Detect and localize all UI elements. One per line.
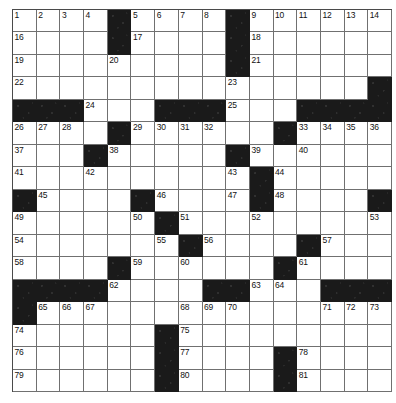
crossword-cell[interactable]: 10: [274, 10, 298, 32]
crossword-cell[interactable]: [250, 302, 274, 324]
crossword-cell[interactable]: 54: [13, 235, 37, 257]
crossword-cell[interactable]: [60, 145, 84, 167]
crossword-cell[interactable]: [274, 100, 298, 122]
crossword-cell[interactable]: [60, 32, 84, 54]
crossword-cell[interactable]: [274, 325, 298, 347]
crossword-cell[interactable]: [37, 235, 61, 257]
crossword-cell[interactable]: [345, 145, 369, 167]
crossword-cell[interactable]: 61: [297, 257, 321, 279]
crossword-cell[interactable]: 5: [131, 10, 155, 32]
crossword-cell[interactable]: [297, 190, 321, 212]
crossword-cell[interactable]: 12: [321, 10, 345, 32]
crossword-cell[interactable]: [368, 55, 392, 77]
crossword-cell[interactable]: 6: [155, 10, 179, 32]
crossword-cell[interactable]: 77: [179, 347, 203, 369]
crossword-cell[interactable]: [84, 347, 108, 369]
crossword-cell[interactable]: 49: [13, 212, 37, 234]
crossword-cell[interactable]: [297, 280, 321, 302]
crossword-cell[interactable]: [155, 257, 179, 279]
crossword-cell[interactable]: [37, 77, 61, 99]
crossword-cell[interactable]: [226, 257, 250, 279]
crossword-cell[interactable]: [37, 347, 61, 369]
crossword-cell[interactable]: [155, 280, 179, 302]
crossword-cell[interactable]: [368, 347, 392, 369]
crossword-cell[interactable]: [368, 370, 392, 392]
crossword-grid[interactable]: 1234567891011121314161718192021222324252…: [12, 9, 392, 392]
crossword-cell[interactable]: [345, 347, 369, 369]
crossword-cell[interactable]: [179, 55, 203, 77]
crossword-cell[interactable]: [297, 55, 321, 77]
crossword-cell[interactable]: [368, 167, 392, 189]
crossword-cell[interactable]: [60, 325, 84, 347]
crossword-cell[interactable]: [84, 190, 108, 212]
crossword-cell[interactable]: [345, 167, 369, 189]
crossword-cell[interactable]: 60: [179, 257, 203, 279]
crossword-cell[interactable]: [108, 167, 132, 189]
crossword-cell[interactable]: [179, 190, 203, 212]
crossword-cell[interactable]: [345, 77, 369, 99]
crossword-cell[interactable]: [179, 280, 203, 302]
crossword-cell[interactable]: 75: [179, 325, 203, 347]
crossword-cell[interactable]: 76: [13, 347, 37, 369]
crossword-cell[interactable]: 73: [368, 302, 392, 324]
crossword-cell[interactable]: 79: [13, 370, 37, 392]
crossword-cell[interactable]: [203, 167, 227, 189]
crossword-cell[interactable]: [321, 167, 345, 189]
crossword-cell[interactable]: 47: [226, 190, 250, 212]
crossword-cell[interactable]: 81: [297, 370, 321, 392]
crossword-cell[interactable]: [203, 32, 227, 54]
crossword-cell[interactable]: [250, 325, 274, 347]
crossword-cell[interactable]: [274, 77, 298, 99]
crossword-cell[interactable]: 46: [155, 190, 179, 212]
crossword-cell[interactable]: [250, 257, 274, 279]
crossword-cell[interactable]: [274, 235, 298, 257]
crossword-cell[interactable]: 24: [84, 100, 108, 122]
crossword-cell[interactable]: [84, 257, 108, 279]
crossword-cell[interactable]: 63: [250, 280, 274, 302]
crossword-cell[interactable]: [250, 370, 274, 392]
crossword-cell[interactable]: [345, 370, 369, 392]
crossword-cell[interactable]: 28: [60, 122, 84, 144]
crossword-cell[interactable]: 35: [345, 122, 369, 144]
crossword-cell[interactable]: [297, 77, 321, 99]
crossword-cell[interactable]: [274, 145, 298, 167]
crossword-cell[interactable]: [321, 145, 345, 167]
crossword-cell[interactable]: [226, 235, 250, 257]
crossword-cell[interactable]: 74: [13, 325, 37, 347]
crossword-cell[interactable]: [37, 370, 61, 392]
crossword-cell[interactable]: [84, 325, 108, 347]
crossword-cell[interactable]: 3: [60, 10, 84, 32]
crossword-cell[interactable]: 17: [131, 32, 155, 54]
crossword-cell[interactable]: 16: [13, 32, 37, 54]
crossword-cell[interactable]: [368, 257, 392, 279]
crossword-cell[interactable]: [179, 145, 203, 167]
crossword-cell[interactable]: [155, 302, 179, 324]
crossword-cell[interactable]: [131, 325, 155, 347]
crossword-cell[interactable]: [84, 235, 108, 257]
crossword-cell[interactable]: [274, 212, 298, 234]
crossword-cell[interactable]: [226, 212, 250, 234]
crossword-cell[interactable]: [203, 55, 227, 77]
crossword-cell[interactable]: [321, 32, 345, 54]
crossword-cell[interactable]: 13: [345, 10, 369, 32]
crossword-cell[interactable]: [345, 55, 369, 77]
crossword-cell[interactable]: [297, 32, 321, 54]
crossword-cell[interactable]: 80: [179, 370, 203, 392]
crossword-cell[interactable]: [274, 302, 298, 324]
crossword-cell[interactable]: 78: [297, 347, 321, 369]
crossword-cell[interactable]: 32: [203, 122, 227, 144]
crossword-cell[interactable]: [60, 370, 84, 392]
crossword-cell[interactable]: [321, 370, 345, 392]
crossword-cell[interactable]: [84, 212, 108, 234]
crossword-cell[interactable]: [203, 77, 227, 99]
crossword-cell[interactable]: 4: [84, 10, 108, 32]
crossword-cell[interactable]: 41: [13, 167, 37, 189]
crossword-cell[interactable]: [84, 77, 108, 99]
crossword-cell[interactable]: 71: [321, 302, 345, 324]
crossword-cell[interactable]: [250, 235, 274, 257]
crossword-cell[interactable]: [131, 302, 155, 324]
crossword-cell[interactable]: [368, 235, 392, 257]
crossword-cell[interactable]: [297, 302, 321, 324]
crossword-cell[interactable]: [131, 347, 155, 369]
crossword-cell[interactable]: 30: [155, 122, 179, 144]
